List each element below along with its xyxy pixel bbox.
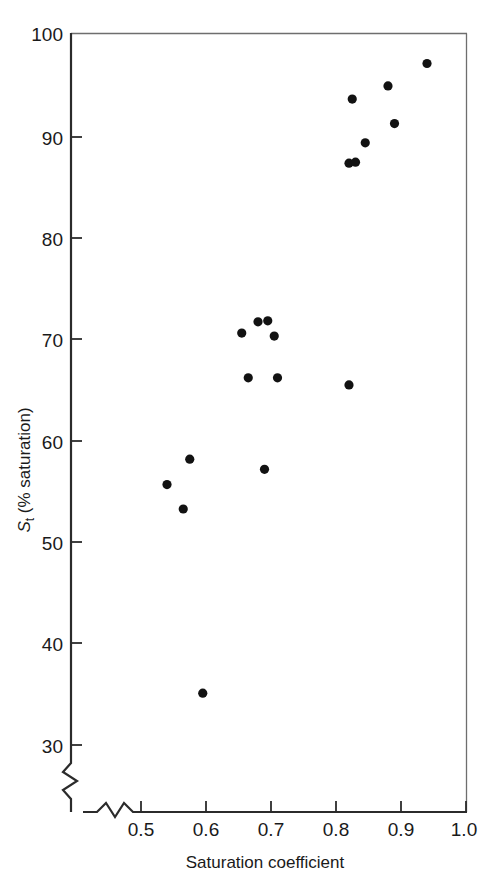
plot-frame — [71, 34, 467, 813]
svg-text:St (% saturation): St (% saturation) — [15, 407, 37, 532]
y-tick-label-40: 40 — [42, 634, 63, 655]
y-axis-ticks — [71, 137, 82, 745]
x-tick-label-0.8: 0.8 — [323, 819, 349, 840]
data-point — [348, 95, 357, 104]
data-point — [361, 138, 370, 147]
data-point — [422, 59, 431, 68]
data-point — [351, 158, 360, 167]
x-axis: 0.5 0.6 0.7 0.8 0.9 1.0 — [83, 801, 477, 840]
y-tick-label-50: 50 — [42, 533, 63, 554]
data-point — [179, 504, 188, 513]
y-tick-label-100: 100 — [31, 24, 63, 45]
y-axis-tick-labels: 100 90 80 70 60 50 40 30 — [31, 24, 63, 757]
x-axis-title: Saturation coefficient — [186, 853, 345, 872]
data-point — [383, 81, 392, 90]
y-tick-label-90: 90 — [42, 128, 63, 149]
data-point — [270, 332, 279, 341]
y-tick-label-60: 60 — [42, 432, 63, 453]
data-points-layer — [162, 59, 431, 698]
x-tick-label-1.0: 1.0 — [451, 819, 477, 840]
data-point — [253, 317, 262, 326]
x-tick-label-0.7: 0.7 — [258, 819, 284, 840]
x-tick-label-0.6: 0.6 — [193, 819, 219, 840]
data-point — [185, 455, 194, 464]
y-axis-title-symbol: S — [15, 521, 34, 533]
data-point — [263, 316, 272, 325]
y-tick-label-70: 70 — [42, 330, 63, 351]
y-tick-label-30: 30 — [42, 736, 63, 757]
data-point — [237, 328, 246, 337]
x-tick-label-0.5: 0.5 — [128, 819, 154, 840]
y-axis-title-group: St (% saturation) — [15, 407, 37, 532]
x-axis-ticks — [141, 801, 466, 812]
y-axis-title-rest: (% saturation) — [15, 407, 34, 518]
y-tick-label-80: 80 — [42, 229, 63, 250]
data-point — [260, 465, 269, 474]
x-axis-tick-labels: 0.5 0.6 0.7 0.8 0.9 1.0 — [128, 819, 477, 840]
plot-canvas: 100 90 80 70 60 50 40 30 0.5 — [0, 0, 499, 888]
data-point — [273, 373, 282, 382]
data-point — [390, 119, 399, 128]
y-axis-line-with-break — [63, 33, 77, 812]
data-point — [244, 373, 253, 382]
x-tick-label-0.9: 0.9 — [388, 819, 414, 840]
data-point — [198, 689, 207, 698]
data-point — [162, 480, 171, 489]
data-point — [344, 380, 353, 389]
scatter-plot-figure: 100 90 80 70 60 50 40 30 0.5 — [0, 0, 499, 888]
y-axis: 100 90 80 70 60 50 40 30 — [31, 24, 82, 812]
